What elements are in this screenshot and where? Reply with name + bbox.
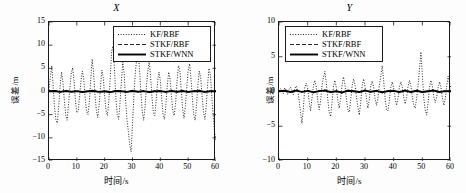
x-tick: 0: [268, 162, 288, 171]
legend-label: STKF/WNN: [322, 49, 365, 59]
y-tick: 5: [252, 51, 275, 60]
x-axis-label-x: 时间/s: [0, 174, 233, 187]
figure-root: X 误差/m −15−10−5051015 0102030405060 时间/s…: [0, 0, 466, 193]
x-tick: 40: [383, 162, 403, 171]
series-kf-rbf: [279, 52, 451, 124]
y-tick: −10: [22, 132, 45, 141]
y-tick: 10: [252, 16, 275, 25]
x-tick: 50: [411, 162, 431, 171]
chart-panel-y: Y 误差/m −10−50510 0102030405060 时间/s KF/R…: [233, 0, 466, 193]
legend-line-sample-solid: [117, 50, 147, 59]
chart-panel-x: X 误差/m −15−10−5051015 0102030405060 时间/s…: [0, 0, 233, 193]
x-tick: 0: [38, 162, 58, 171]
x-axis-label-y: 时间/s: [233, 174, 466, 187]
y-axis-label-x: 误差/m: [8, 67, 20, 113]
y-tick: 0: [22, 86, 45, 95]
legend-item[interactable]: KF/RBF: [117, 29, 207, 39]
legend-label: KF/RBF: [150, 29, 179, 39]
legend-line-sample-dotted: [117, 30, 147, 39]
y-tick: 5: [22, 62, 45, 71]
y-tick: 0: [252, 86, 275, 95]
y-tick: 15: [22, 16, 45, 25]
legend-item[interactable]: STKF/RBF: [289, 39, 379, 49]
legend-label: KF/RBF: [322, 29, 351, 39]
legend-item[interactable]: STKF/WNN: [289, 49, 379, 59]
y-tick: −5: [252, 120, 275, 129]
x-tick: 30: [354, 162, 374, 171]
x-tick: 60: [205, 162, 225, 171]
legend-label: STKF/WNN: [150, 49, 193, 59]
panel-title-x: X: [0, 2, 233, 13]
x-tick: 40: [149, 162, 169, 171]
y-tick: 10: [22, 39, 45, 48]
legend-x[interactable]: KF/RBFSTKF/RBFSTKF/WNN: [113, 26, 211, 62]
x-tick: 20: [94, 162, 114, 171]
x-tick: 10: [66, 162, 86, 171]
legend-line-sample-dashed: [117, 40, 147, 49]
x-tick: 30: [122, 162, 142, 171]
x-tick: 10: [297, 162, 317, 171]
x-tick: 60: [440, 162, 460, 171]
legend-item[interactable]: STKF/WNN: [117, 49, 207, 59]
legend-y[interactable]: KF/RBFSTKF/RBFSTKF/WNN: [285, 26, 383, 62]
legend-label: STKF/RBF: [322, 39, 361, 49]
y-tick: −5: [22, 109, 45, 118]
legend-line-sample-dashed: [289, 40, 319, 49]
legend-item[interactable]: KF/RBF: [289, 29, 379, 39]
legend-line-sample-dotted: [289, 30, 319, 39]
legend-label: STKF/RBF: [150, 39, 189, 49]
x-tick: 20: [325, 162, 345, 171]
legend-line-sample-solid: [289, 50, 319, 59]
series-stkf-wnn: [49, 91, 216, 92]
x-tick: 50: [177, 162, 197, 171]
panel-title-y: Y: [233, 2, 466, 13]
legend-item[interactable]: STKF/RBF: [117, 39, 207, 49]
